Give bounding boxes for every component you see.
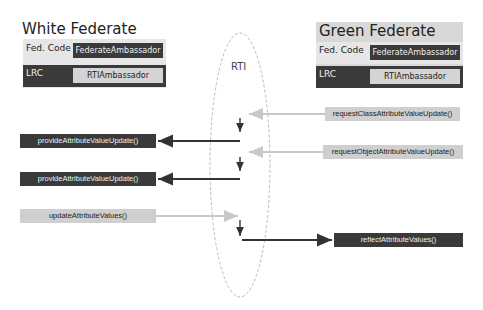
request-object-attribute-value-update: requestObjectAttributeValueUpdate() [323, 145, 463, 159]
provide-attribute-value-update-2: provideAttributeValueUpdate() [20, 172, 156, 186]
white-lrc-label: LRC [26, 68, 43, 78]
white-rti-ambassador: RTIAmbassador [73, 68, 163, 83]
green-federate-ambassador: FederateAmbassador [370, 45, 460, 60]
white-federate-panel: Fed. Code FederateAmbassador LRC RTIAmba… [23, 39, 166, 88]
provide-attribute-value-update-1: provideAttributeValueUpdate() [20, 134, 156, 148]
green-fed-code-label: Fed. Code [319, 45, 364, 55]
reflect-attribute-values: reflectAttributeValues() [334, 233, 463, 247]
update-attribute-values: updateAttributeValues() [20, 209, 156, 223]
rti-label: RTI [231, 61, 246, 72]
green-federate-title: Green Federate [319, 22, 435, 40]
white-federate-ambassador: FederateAmbassador [73, 43, 163, 58]
green-rti-ambassador: RTIAmbassador [370, 69, 460, 84]
white-fed-code-label: Fed. Code [26, 43, 71, 53]
green-lrc-label: LRC [319, 69, 336, 79]
request-class-attribute-value-update: requestClassAttributeValueUpdate() [325, 107, 460, 121]
green-federate-panel: Green Federate Fed. Code FederateAmbassa… [316, 22, 463, 88]
white-federate-title: White Federate [22, 20, 137, 38]
